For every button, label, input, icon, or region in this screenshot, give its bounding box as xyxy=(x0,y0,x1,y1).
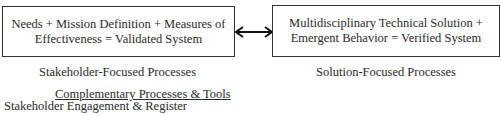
stakeholder-box-line2: Effectiveness = Validated System xyxy=(11,32,225,47)
solution-caption: Solution-Focused Processes xyxy=(272,65,500,80)
complementary-item: Stakeholder Engagement & Register xyxy=(4,99,187,114)
bidirectional-arrow-icon xyxy=(234,25,274,39)
stakeholder-caption: Stakeholder-Focused Processes xyxy=(0,65,235,80)
stakeholder-box-line1: Needs + Mission Definition + Measures of xyxy=(11,17,225,32)
stakeholder-box: Needs + Mission Definition + Measures of… xyxy=(2,6,235,57)
solution-box: Multidisciplinary Technical Solution + E… xyxy=(272,5,500,57)
solution-box-line1: Multidisciplinary Technical Solution + xyxy=(289,16,483,31)
solution-box-line2: Emergent Behavior = Verified System xyxy=(289,31,483,46)
